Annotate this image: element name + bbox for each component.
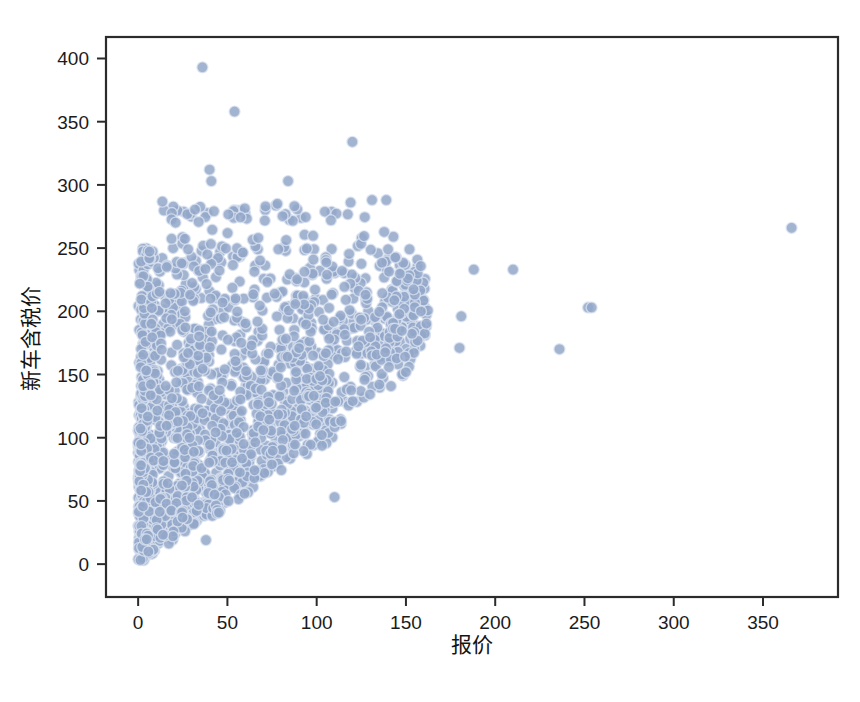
data-point	[308, 230, 319, 241]
data-point	[262, 276, 273, 287]
data-point	[184, 289, 195, 300]
data-point	[253, 232, 264, 243]
data-point	[339, 281, 350, 292]
data-point	[227, 260, 238, 271]
data-point	[326, 289, 337, 300]
data-point	[308, 350, 319, 361]
data-point	[214, 265, 225, 276]
data-point	[146, 303, 157, 314]
data-point	[154, 286, 165, 297]
data-point	[289, 439, 300, 450]
data-point	[408, 284, 419, 295]
data-point	[259, 215, 270, 226]
data-point	[308, 390, 319, 401]
y-tick-label: 100	[57, 428, 89, 449]
x-tick-label: 150	[390, 612, 422, 633]
data-point	[238, 439, 249, 450]
data-point	[508, 264, 519, 275]
data-point	[400, 367, 411, 378]
x-tick-label: 350	[747, 612, 779, 633]
x-tick-label: 50	[217, 612, 238, 633]
data-point	[162, 478, 173, 489]
data-point	[281, 235, 292, 246]
data-point	[317, 440, 328, 451]
data-point	[227, 282, 238, 293]
data-point	[214, 385, 225, 396]
data-point	[210, 427, 221, 438]
data-point	[360, 289, 371, 300]
data-point	[264, 414, 275, 425]
data-point	[253, 399, 264, 410]
data-point	[311, 402, 322, 413]
data-point	[144, 246, 155, 257]
data-point	[135, 423, 146, 434]
data-point	[266, 459, 277, 470]
data-point	[324, 333, 335, 344]
data-point	[260, 201, 271, 212]
data-point	[269, 288, 280, 299]
data-point	[289, 420, 300, 431]
data-point	[160, 298, 171, 309]
data-point	[183, 244, 194, 255]
data-point	[200, 264, 211, 275]
data-point	[166, 393, 177, 404]
data-point	[167, 531, 178, 542]
data-point	[340, 294, 351, 305]
data-point	[230, 293, 241, 304]
data-point	[219, 312, 230, 323]
y-axis-ticks: 050100150200250300350400	[57, 48, 106, 575]
data-point	[290, 299, 301, 310]
data-point	[316, 430, 327, 441]
data-point	[289, 201, 300, 212]
data-point	[400, 351, 411, 362]
data-point	[324, 302, 335, 313]
data-point	[180, 322, 191, 333]
data-point	[249, 266, 260, 277]
y-tick-label: 400	[57, 48, 89, 69]
data-point	[311, 419, 322, 430]
data-point	[161, 262, 172, 273]
scatter-figure: 050100150200250300350 050100150200250300…	[0, 0, 860, 702]
data-point	[197, 62, 208, 73]
data-point	[194, 331, 205, 342]
data-point	[313, 361, 324, 372]
data-point	[380, 347, 391, 358]
scatter-plot: 050100150200250300350 050100150200250300…	[0, 0, 860, 702]
data-point	[396, 325, 407, 336]
data-point	[220, 243, 231, 254]
data-point	[249, 465, 260, 476]
data-point	[272, 311, 283, 322]
data-point	[345, 197, 356, 208]
data-point	[221, 445, 232, 456]
y-tick-label: 50	[68, 491, 89, 512]
data-point	[184, 432, 195, 443]
data-point	[280, 333, 291, 344]
data-point	[255, 365, 266, 376]
data-point	[381, 195, 392, 206]
data-point	[336, 416, 347, 427]
data-point	[160, 381, 171, 392]
data-point	[359, 212, 370, 223]
y-tick-label: 250	[57, 238, 89, 259]
data-point	[254, 300, 265, 311]
data-point	[328, 316, 339, 327]
data-point	[204, 164, 215, 175]
data-point	[342, 209, 353, 220]
data-point	[308, 254, 319, 265]
y-tick-label: 350	[57, 112, 89, 133]
data-point	[205, 239, 216, 250]
data-point	[239, 488, 250, 499]
data-point	[321, 257, 332, 268]
data-point	[219, 364, 230, 375]
y-tick-label: 300	[57, 175, 89, 196]
data-point	[379, 226, 390, 237]
data-point	[205, 293, 216, 304]
data-point	[235, 212, 246, 223]
data-point	[179, 233, 190, 244]
data-point	[183, 348, 194, 359]
data-point	[234, 467, 245, 478]
data-point	[291, 366, 302, 377]
data-point	[294, 343, 305, 354]
data-point	[231, 427, 242, 438]
data-point	[170, 217, 181, 228]
